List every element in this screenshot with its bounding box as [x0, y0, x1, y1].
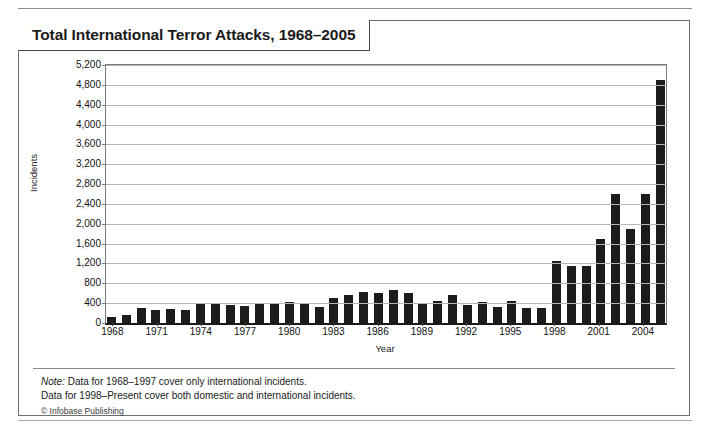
- y-tick-mark: [102, 184, 106, 185]
- page-top-divider: [18, 8, 692, 9]
- page-header-ghost-text: [88, 0, 128, 5]
- note-line-1: Note: Data for 1968–1997 cover only inte…: [41, 375, 661, 389]
- x-axis-tick-1977: 1977: [234, 326, 256, 338]
- bar-1999: [567, 266, 576, 323]
- bar-2001: [596, 239, 605, 323]
- y-tick-mark: [102, 85, 106, 86]
- y-axis-tick-3600: 3,600: [76, 138, 101, 149]
- x-tick-mark: [554, 322, 555, 326]
- x-axis-tick-1971: 1971: [145, 326, 167, 338]
- gridline: [106, 65, 666, 66]
- gridline: [106, 204, 666, 205]
- bar-1970: [137, 308, 146, 323]
- y-axis-tick-3200: 3,200: [76, 158, 101, 169]
- page-title: Total International Terror Attacks, 1968…: [32, 26, 355, 44]
- gridline: [106, 85, 666, 86]
- y-axis-tick-labels: 5,2004,8004,4004,0003,6003,2002,8002,400…: [53, 52, 105, 342]
- y-axis-tick-2800: 2,800: [76, 178, 101, 189]
- y-tick-mark: [102, 224, 106, 225]
- chart-figure: Total International Terror Attacks, 1968…: [18, 20, 690, 416]
- y-tick-mark: [102, 283, 106, 284]
- y-axis-tick-4000: 4,000: [76, 118, 101, 129]
- gridline: [106, 164, 666, 165]
- y-axis-tick-1200: 1,200: [76, 257, 101, 268]
- y-axis-tick-0: 0: [95, 317, 101, 328]
- bar-1990: [433, 301, 442, 323]
- bar-1985: [359, 292, 368, 323]
- chart-title-box: Total International Terror Attacks, 1968…: [18, 20, 370, 51]
- bar-1969: [122, 315, 131, 323]
- note-line-2: Data for 1998–Present cover both domesti…: [41, 389, 661, 403]
- x-axis-tick-2004: 2004: [632, 326, 654, 338]
- y-axis-tick-2400: 2,400: [76, 197, 101, 208]
- x-tick-mark: [378, 322, 379, 326]
- x-axis-tick-1983: 1983: [322, 326, 344, 338]
- bar-1973: [181, 310, 190, 323]
- bar-1992: [463, 305, 472, 323]
- y-tick-mark: [102, 65, 106, 66]
- x-axis-tick-labels: 1968197119741977198019831986198919921995…: [105, 326, 665, 342]
- bar-1996: [522, 308, 531, 323]
- gridline: [106, 125, 666, 126]
- x-axis-tick-1974: 1974: [190, 326, 212, 338]
- bar-1991: [448, 295, 457, 323]
- note-divider: [33, 368, 675, 369]
- y-axis-tick-2000: 2,000: [76, 217, 101, 228]
- note-emphasis: Note:: [41, 376, 65, 387]
- bar-1978: [255, 304, 264, 323]
- y-axis-tick-4400: 4,400: [76, 98, 101, 109]
- x-tick-mark: [422, 322, 423, 326]
- x-axis-tick-1968: 1968: [101, 326, 123, 338]
- y-tick-mark: [102, 105, 106, 106]
- x-tick-mark: [112, 322, 113, 326]
- x-tick-mark: [157, 322, 158, 326]
- bar-1984: [344, 295, 353, 323]
- x-tick-mark: [466, 322, 467, 326]
- y-tick-mark: [102, 323, 106, 324]
- y-tick-mark: [102, 303, 106, 304]
- x-tick-mark: [599, 322, 600, 326]
- x-axis-tick-1995: 1995: [499, 326, 521, 338]
- x-tick-mark: [245, 322, 246, 326]
- bar-1980: [285, 302, 294, 323]
- bar-2005: [656, 80, 665, 323]
- gridline: [106, 244, 666, 245]
- bar-1971: [151, 310, 160, 323]
- bar-1988: [404, 293, 413, 323]
- x-tick-mark: [643, 322, 644, 326]
- y-axis-title: Incidents: [27, 178, 41, 192]
- figure-notes: Note: Data for 1968–1997 cover only inte…: [41, 375, 661, 402]
- gridline: [106, 283, 666, 284]
- x-tick-mark: [510, 322, 511, 326]
- gridline: [106, 144, 666, 145]
- plot-wrapper: Incidents 5,2004,8004,4004,0003,6003,200…: [19, 52, 689, 372]
- gridline: [106, 105, 666, 106]
- bar-1994: [493, 307, 502, 323]
- bar-1977: [240, 306, 249, 323]
- bar-1974: [196, 304, 205, 323]
- y-tick-mark: [102, 204, 106, 205]
- y-tick-mark: [102, 144, 106, 145]
- y-axis-tick-4800: 4,800: [76, 78, 101, 89]
- gridline: [106, 184, 666, 185]
- x-tick-mark: [289, 322, 290, 326]
- x-axis-tick-2001: 2001: [588, 326, 610, 338]
- bar-1993: [478, 302, 487, 323]
- y-axis-tick-800: 800: [84, 277, 101, 288]
- x-tick-mark: [201, 322, 202, 326]
- x-axis-tick-1992: 1992: [455, 326, 477, 338]
- bar-1972: [166, 309, 175, 323]
- gridline: [106, 263, 666, 264]
- gridline: [106, 224, 666, 225]
- bar-1975: [211, 304, 220, 323]
- y-axis-tick-5200: 5,200: [76, 59, 101, 70]
- bar-1998: [552, 261, 561, 323]
- bar-1986: [374, 293, 383, 323]
- bar-1987: [389, 290, 398, 323]
- bar-1997: [537, 308, 546, 323]
- bar-1976: [226, 305, 235, 323]
- bar-1981: [300, 304, 309, 323]
- gridline: [106, 303, 666, 304]
- y-tick-mark: [102, 125, 106, 126]
- x-axis-tick-1989: 1989: [411, 326, 433, 338]
